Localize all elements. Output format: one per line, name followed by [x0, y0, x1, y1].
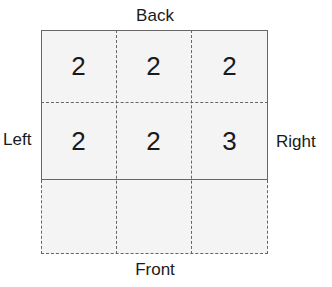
row-divider-1: [41, 102, 268, 103]
grid-cell-r0-c0: 2: [41, 30, 116, 102]
grid-cell-r1-c2: 3: [191, 102, 268, 180]
grid-cell-r0-c2: 2: [191, 30, 268, 102]
bottom-row-bottom-edge: [41, 253, 268, 254]
bottom-row-right-edge: [267, 180, 268, 254]
grid-cell-r2-c2: [191, 180, 268, 254]
layout-grid: 2 2 2 2 2 3: [41, 30, 268, 254]
grid-cell-r0-c1: 2: [116, 30, 191, 102]
grid-cell-r2-c1: [116, 180, 191, 254]
grid-cell-r2-c0: [41, 180, 116, 254]
bottom-row-left-edge: [41, 180, 42, 254]
left-label: Left: [3, 131, 31, 148]
column-divider-2: [191, 30, 192, 254]
back-label: Back: [0, 7, 310, 24]
grid-cell-r1-c0: 2: [41, 102, 116, 180]
column-divider-1: [116, 30, 117, 254]
front-label: Front: [0, 261, 310, 278]
right-label: Right: [276, 133, 316, 150]
grid-cell-r1-c1: 2: [116, 102, 191, 180]
